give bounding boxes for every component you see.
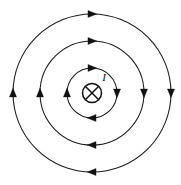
middle-field-line-arrow-top — [88, 37, 97, 44]
middle-field-line-arrow-left — [36, 88, 43, 97]
inner-field-line-arrow-bottom — [87, 114, 96, 121]
field-diagram-canvas: I — [0, 0, 181, 185]
outer-field-line-arrow-right — [167, 89, 174, 98]
magnetic-field-diagram: I — [0, 0, 181, 185]
outer-field-line-arrow-top — [88, 10, 97, 17]
inner-field-line-arrow-right — [113, 89, 120, 98]
outer-field-line-arrow-left — [9, 88, 16, 97]
inner-field-line-arrow-left — [63, 88, 70, 97]
inner-field-line-arrow-top — [88, 64, 97, 71]
middle-field-line-arrow-bottom — [87, 141, 96, 148]
outer-field-line-arrow-bottom — [87, 168, 96, 175]
middle-field-line-arrow-right — [140, 89, 147, 98]
